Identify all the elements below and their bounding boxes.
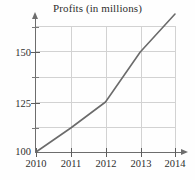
profits-line-chart-figure: Profits (in millions) 150 125 100 2010 2… bbox=[0, 0, 195, 180]
data-series-svg bbox=[0, 0, 195, 180]
profits-data-line bbox=[36, 14, 175, 152]
